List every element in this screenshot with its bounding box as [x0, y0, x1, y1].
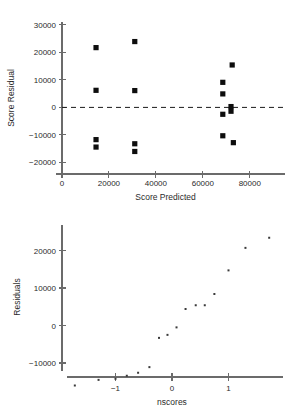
data-point [158, 337, 160, 339]
top-chart-y-axis-label: Score Residual [6, 69, 16, 127]
bottom-y-tick-label: 20000 [34, 247, 57, 256]
top-y-tick-label: 10000 [34, 76, 57, 85]
top-y-tick-label: 30000 [34, 21, 57, 30]
bottom-x-tick-label: 1 [226, 384, 231, 393]
bottom-chart-x-axis-label: nscores [157, 397, 187, 407]
data-point [195, 304, 197, 306]
data-point [213, 293, 215, 295]
bottom-x-tick-label: −1 [111, 384, 121, 393]
data-point [132, 149, 137, 154]
data-point [98, 379, 100, 381]
top-y-tick-label: 0 [52, 103, 57, 112]
data-point [115, 378, 117, 380]
top-y-tick-label: −10000 [29, 131, 56, 140]
data-point [220, 80, 225, 85]
bottom-y-tick-label: 10000 [34, 284, 57, 293]
data-point [132, 88, 137, 93]
data-point [132, 39, 137, 44]
data-point [228, 269, 230, 271]
top-x-tick-label: 60000 [192, 179, 215, 188]
residual-plots-figure: −20000−100000100002000030000020000400006… [0, 0, 299, 416]
data-point [93, 144, 98, 149]
data-point [93, 45, 98, 50]
top-x-tick-label: 40000 [145, 179, 168, 188]
data-point [166, 334, 168, 336]
data-point [244, 247, 246, 249]
top-chart-axes [56, 22, 285, 178]
data-point [220, 133, 225, 138]
top-y-tick-label: −20000 [29, 158, 56, 167]
data-point [220, 91, 225, 96]
top-x-tick-label: 0 [60, 179, 65, 188]
top-chart-data-points [93, 39, 236, 154]
data-point [93, 137, 98, 142]
data-point [74, 385, 76, 387]
bottom-y-tick-label: −10000 [29, 359, 56, 368]
data-point [228, 104, 233, 109]
top-x-tick-label: 20000 [98, 179, 121, 188]
data-point [228, 109, 233, 114]
data-point [132, 141, 137, 146]
data-point [220, 112, 225, 117]
data-point [204, 304, 206, 306]
data-point [230, 62, 235, 67]
top-y-tick-label: 20000 [34, 48, 57, 57]
bottom-chart-data-points [74, 237, 270, 387]
top-x-tick-label: 80000 [239, 179, 262, 188]
data-point [93, 88, 98, 93]
data-point [231, 140, 236, 145]
bottom-x-tick-label: 0 [170, 384, 175, 393]
chart-score-residual-vs-predicted: −20000−100000100002000030000020000400006… [0, 0, 299, 205]
bottom-y-tick-label: 0 [52, 322, 57, 331]
data-point [176, 326, 178, 328]
data-point [268, 237, 270, 239]
data-point [148, 366, 150, 368]
chart-residuals-vs-nscores: −1000001000020000−101 nscores Residuals [0, 205, 299, 416]
bottom-chart-y-axis-label: Residuals [12, 278, 22, 315]
data-point [185, 308, 187, 310]
bottom-chart-axes [59, 225, 284, 381]
bottom-chart-tick-labels: −1000001000020000−101 [29, 247, 231, 394]
data-point [126, 375, 128, 377]
data-point [137, 372, 139, 374]
top-chart-x-axis-label: Score Predicted [135, 192, 196, 202]
